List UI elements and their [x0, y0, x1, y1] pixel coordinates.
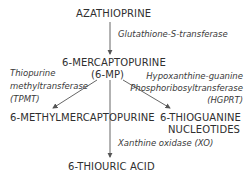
enzyme-hgprt-line1: Hypoxanthine-guanine: [146, 71, 243, 81]
enzyme-tpmt-line1: Thiopurine: [10, 68, 55, 78]
enzyme-tpmt-line2: methyltransferase: [10, 81, 88, 91]
enzyme-hgprt-line2: Phosphoribosyltransferase: [130, 83, 243, 93]
node-6-thiouric-acid: 6-THIOURIC ACID: [68, 161, 155, 172]
enzyme-tpmt-abbr: (TPMT): [10, 94, 39, 104]
enzyme-xo: Xanthine oxidase (XO): [118, 138, 213, 148]
node-nucleotides: NUCLEOTIDES: [168, 124, 240, 135]
node-6-methylmercaptopurine: 6-METHYLMERCAPTOPURINE: [10, 112, 155, 123]
node-6-thioguanine: 6-THIOGUANINE: [160, 112, 241, 123]
enzyme-hgprt-abbr: (HGPRT): [207, 95, 243, 105]
node-azathioprine: AZATHIOPRINE: [76, 8, 151, 19]
node-6mp-abbr: (6-MP): [91, 69, 124, 80]
enzyme-gst: Glutathione-S-transferase: [118, 29, 228, 39]
node-6-mercaptopurine: 6-MERCAPTOPURINE: [62, 57, 166, 68]
